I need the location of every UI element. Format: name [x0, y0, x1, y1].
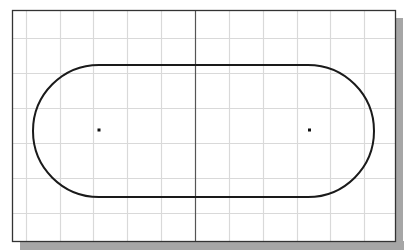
- drawing-area[interactable]: [12, 10, 395, 241]
- frame-shadow-right: [395, 18, 403, 250]
- drawing-svg: [0, 0, 410, 252]
- left-center-point: [98, 129, 101, 132]
- right-center-point: [308, 129, 311, 132]
- frame-shadow-bottom: [20, 241, 404, 250]
- cad-drawing-canvas: [0, 0, 410, 252]
